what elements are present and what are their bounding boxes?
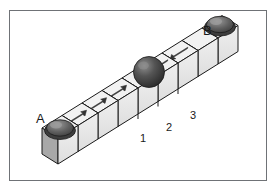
figure-root: A B 1 2 3: [0, 0, 279, 195]
label-marker-1: 1: [140, 133, 146, 144]
label-start-a: A: [36, 112, 45, 125]
label-end-b: B: [203, 24, 212, 37]
label-marker-3: 3: [190, 110, 196, 121]
isometric-scene: [0, 0, 279, 195]
sphere-a: [45, 120, 76, 140]
label-marker-2: 2: [166, 122, 172, 133]
sphere-center: [134, 57, 165, 88]
isometric-cubes-svg: [0, 0, 279, 195]
